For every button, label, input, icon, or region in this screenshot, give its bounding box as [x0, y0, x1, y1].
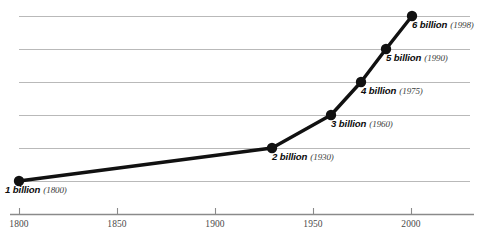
data-label-value: 5 billion — [386, 52, 421, 63]
chart-plot-area — [0, 0, 485, 242]
population-growth-chart: 1 billion(1800) 2 billion(1930) 3 billio… — [0, 0, 485, 242]
data-label-value: 3 billion — [331, 118, 366, 129]
data-label-3-billion: 3 billion(1960) — [331, 118, 393, 129]
data-label-1-billion: 1 billion(1800) — [5, 184, 67, 195]
data-label-value: 4 billion — [361, 85, 396, 96]
data-label-4-billion: 4 billion(1975) — [361, 85, 423, 96]
data-label-value: 1 billion — [5, 184, 40, 195]
data-label-value: 6 billion — [412, 19, 447, 30]
x-axis-tick-label: 1850 — [107, 219, 126, 229]
gridlines — [19, 17, 470, 182]
data-label-year: (1930) — [310, 152, 333, 162]
data-label-year: (1998) — [450, 20, 473, 30]
data-label-2-billion: 2 billion(1930) — [272, 151, 334, 162]
x-axis-tick-label: 1950 — [303, 219, 322, 229]
x-axis-tick-label: 1900 — [205, 219, 224, 229]
data-markers — [14, 11, 417, 186]
data-label-5-billion: 5 billion(1990) — [386, 52, 448, 63]
x-axis-tick-label: 1800 — [9, 219, 28, 229]
data-label-year: (1990) — [424, 53, 447, 63]
population-line — [19, 16, 412, 181]
x-axis — [10, 208, 474, 215]
x-axis-tick-label: 2000 — [401, 219, 420, 229]
data-label-year: (1960) — [369, 119, 392, 129]
data-label-year: (1975) — [399, 86, 422, 96]
data-label-year: (1800) — [43, 185, 66, 195]
data-label-6-billion: 6 billion(1998) — [412, 19, 474, 30]
data-label-value: 2 billion — [272, 151, 307, 162]
